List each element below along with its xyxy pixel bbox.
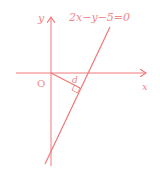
x-axis-label: x (142, 81, 148, 92)
line-2x-y-5 (45, 27, 110, 164)
distance-label: d (72, 75, 78, 85)
line-equation-label: 2x−y−5=0 (68, 11, 130, 24)
y-axis-label: y (37, 12, 45, 25)
diagram-canvas: y x O d 2x−y−5=0 (0, 0, 160, 171)
origin-label: O (37, 78, 45, 89)
